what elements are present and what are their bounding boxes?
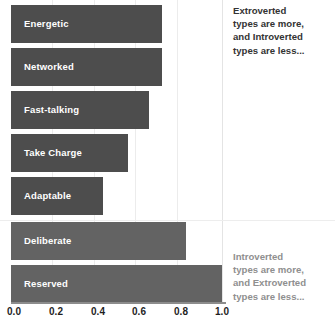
annotation-line: types are more,: [233, 263, 335, 276]
annotation-introverted: Introverted types are more, and Extrover…: [233, 250, 335, 303]
bar-label: Adaptable: [24, 177, 71, 215]
bar-label: Fast-talking: [24, 91, 79, 129]
x-tick-label: 0.4: [91, 306, 105, 317]
bar-label: Deliberate: [24, 222, 71, 260]
x-tick-label: 0.2: [49, 306, 63, 317]
group-divider: [0, 220, 335, 221]
annotation-line: Introverted: [233, 250, 335, 263]
bar-label: Reserved: [24, 265, 68, 303]
x-tick-label: 0.6: [132, 306, 146, 317]
x-axis-line: [11, 302, 226, 304]
gridline-1.0: [222, 0, 223, 302]
bar-label: Networked: [24, 48, 74, 86]
x-tick-label: 1.0: [215, 306, 229, 317]
horizontal-bar-chart: Energetic Networked Fast-talking Take Ch…: [0, 0, 335, 331]
annotation-line: types are less...: [233, 44, 335, 57]
x-tick-label: 0.0: [7, 306, 21, 317]
annotation-line: Extroverted: [233, 4, 335, 17]
bar-label: Energetic: [24, 5, 69, 43]
annotation-line: and Introverted: [233, 30, 335, 43]
bar-label: Take Charge: [24, 134, 82, 172]
x-tick-label: 0.8: [174, 306, 188, 317]
annotation-line: types are more,: [233, 17, 335, 30]
annotation-line: types are less...: [233, 290, 335, 303]
annotation-extroverted: Extroverted types are more, and Introver…: [233, 4, 335, 57]
annotation-line: and Extroverted: [233, 276, 335, 289]
